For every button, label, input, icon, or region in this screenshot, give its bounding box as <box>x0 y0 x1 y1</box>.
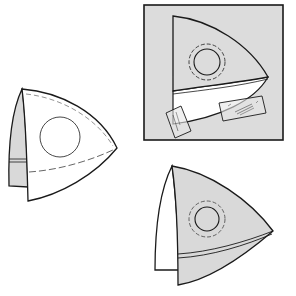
left-piece-body <box>22 89 117 201</box>
bottom-right-piece <box>155 166 273 285</box>
top-right-panel <box>144 5 283 140</box>
diagram-canvas <box>0 0 296 296</box>
bottom-right-piece-body <box>172 166 273 285</box>
left-piece <box>9 89 117 201</box>
